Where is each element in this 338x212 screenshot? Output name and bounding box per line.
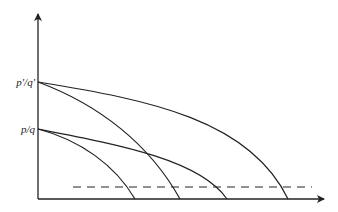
curve-lower-steep xyxy=(38,129,135,199)
label-lower-price-ratio: p/q xyxy=(20,123,36,135)
diagram-canvas: p'/q' p/q xyxy=(0,0,338,212)
curve-upper-steep xyxy=(38,82,180,199)
curve-upper-flat xyxy=(38,82,288,199)
label-upper-price-ratio: p'/q' xyxy=(15,76,35,88)
